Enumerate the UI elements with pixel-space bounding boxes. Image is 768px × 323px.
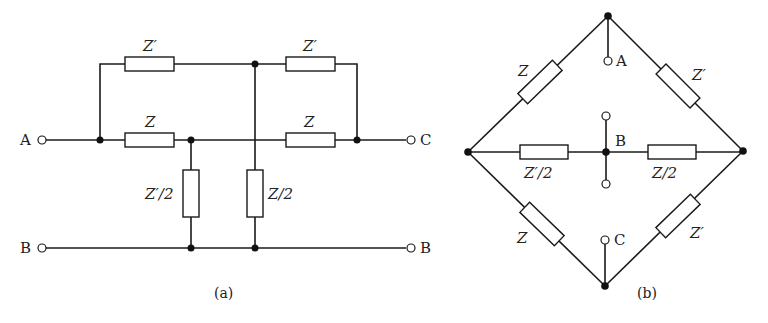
junction-dot — [188, 137, 195, 144]
circuit-figure: A C B B Z′ Z′ Z Z Z′/2 Z/2 (a) — [0, 0, 768, 323]
component-label: Z′ — [691, 66, 706, 84]
resistor-top-left — [125, 57, 174, 71]
terminal-label: C — [420, 131, 431, 149]
wire — [335, 64, 357, 140]
caption-a: (a) — [214, 285, 233, 301]
junction-dot — [252, 61, 259, 68]
circuit-diagrams: A C B B Z′ Z′ Z Z Z′/2 Z/2 (a) — [0, 0, 768, 323]
terminal-label: A — [19, 131, 31, 149]
caption-b: (b) — [637, 285, 657, 301]
junction-dot — [97, 137, 104, 144]
terminal-b-lower — [602, 180, 610, 188]
terminal-c — [601, 236, 609, 244]
terminal-label: C — [614, 231, 625, 249]
terminal-a — [604, 57, 612, 65]
terminal-label: B — [615, 132, 626, 150]
junction-dot — [601, 282, 609, 290]
terminal-b-left — [38, 244, 46, 252]
junction-dot — [252, 245, 259, 252]
junction-dot — [188, 245, 195, 252]
component-label: Z′ — [142, 37, 157, 55]
component-label: Z′/2 — [523, 164, 552, 182]
component-label: Z — [516, 229, 528, 247]
junction-dot — [354, 137, 361, 144]
junction-dot — [739, 147, 747, 155]
component-label: Z — [303, 113, 315, 131]
junction-dot — [604, 12, 612, 20]
component-label: Z′ — [302, 37, 317, 55]
resistor-shunt-left — [183, 170, 199, 217]
resistor-mid-right — [286, 133, 335, 147]
resistor-center-right — [648, 145, 696, 159]
wire — [100, 64, 125, 140]
terminal-label: B — [420, 239, 431, 257]
terminal-label: A — [615, 52, 627, 70]
component-label: Z/2 — [651, 164, 677, 182]
terminal-a — [38, 136, 46, 144]
terminal-c — [407, 136, 415, 144]
figure-b: A B C Z Z′ Z′/2 Z/2 Z Z′ (b) — [464, 12, 747, 301]
component-label: Z′ — [689, 224, 704, 242]
component-label: Z′/2 — [144, 185, 173, 203]
component-label: Z — [517, 62, 529, 80]
junction-dot — [464, 148, 472, 156]
terminal-label: B — [20, 239, 31, 257]
component-label: Z — [144, 113, 156, 131]
component-label: Z/2 — [267, 185, 293, 203]
resistor-mid-left — [125, 133, 174, 147]
resistor-top-right — [286, 57, 335, 71]
figure-a: A C B B Z′ Z′ Z Z Z′/2 Z/2 (a) — [19, 37, 431, 301]
terminal-b-right — [407, 244, 415, 252]
resistor-center-left — [520, 145, 568, 159]
junction-dot — [602, 148, 610, 156]
resistor-shunt-right — [247, 170, 263, 217]
terminal-b-upper — [602, 112, 610, 120]
